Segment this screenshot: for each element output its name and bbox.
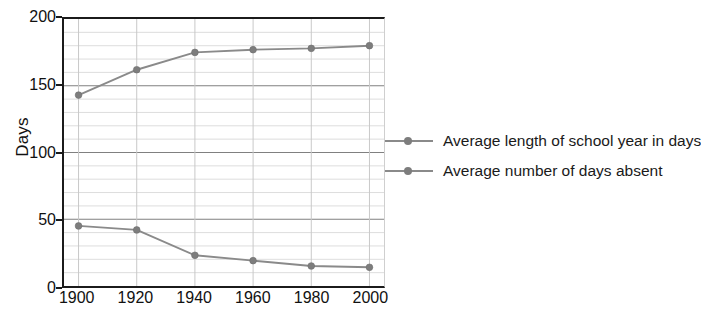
x-tick-label: 1940 bbox=[176, 290, 212, 306]
x-tick-label: 1920 bbox=[118, 290, 154, 306]
legend-item-1[interactable]: Average number of days absent bbox=[385, 156, 660, 186]
x-axis-tick-labels: 190019201940196019802000 bbox=[62, 290, 385, 314]
legend-label: Average length of school year in days bbox=[443, 132, 701, 150]
legend-label: Average number of days absent bbox=[443, 162, 662, 180]
legend-item-0[interactable]: Average length of school year in days bbox=[385, 126, 660, 156]
y-tick-label: 100 bbox=[8, 145, 56, 161]
legend-marker-icon bbox=[385, 165, 433, 177]
y-tick-label: 200 bbox=[8, 9, 56, 25]
plot-area bbox=[62, 17, 385, 288]
x-tick-label: 1960 bbox=[235, 290, 271, 306]
x-tick-label: 1980 bbox=[294, 290, 330, 306]
y-tick-label: 150 bbox=[8, 77, 56, 93]
y-axis-tick-labels: 050100150200 bbox=[0, 17, 56, 288]
y-tick-label: 50 bbox=[8, 212, 56, 228]
x-tick-label: 2000 bbox=[353, 290, 389, 306]
series-lines bbox=[64, 19, 384, 286]
legend-marker-icon bbox=[385, 135, 433, 147]
x-tick-label: 1900 bbox=[59, 290, 95, 306]
chart-legend: Average length of school year in daysAve… bbox=[385, 126, 660, 186]
y-tick-label: 0 bbox=[8, 280, 56, 296]
